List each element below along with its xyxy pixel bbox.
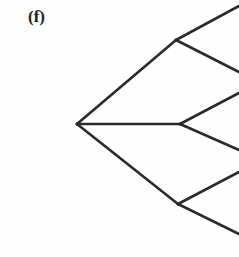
panel-label: (f) — [28, 8, 45, 25]
tree-node — [175, 39, 178, 42]
tree-node — [76, 123, 79, 126]
tree-node — [179, 123, 182, 126]
tree-node — [177, 203, 180, 206]
figure-background — [0, 0, 239, 257]
figure-panel: (f) — [0, 0, 239, 257]
tree-diagram-canvas — [0, 0, 239, 257]
